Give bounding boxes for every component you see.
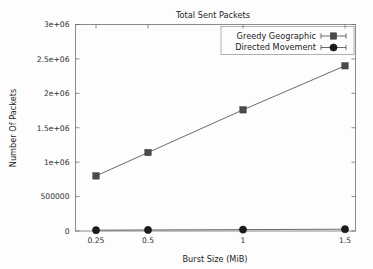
chart-svg: Total Sent Packets 05000001e+061.5e+062e… [0, 0, 373, 269]
y-tick-label: 2.5e+06 [37, 55, 70, 64]
data-point-circle [92, 227, 99, 234]
x-tick-label: 1 [241, 236, 246, 245]
data-point-square [330, 33, 336, 39]
y-tick-label: 500000 [41, 192, 70, 201]
y-axis-title: Number Of Packets [8, 89, 18, 167]
data-point-circle [144, 226, 151, 233]
data-point-square [93, 173, 99, 179]
data-point-circle [341, 226, 348, 233]
data-point-square [240, 107, 246, 113]
y-tick-label: 3e+06 [44, 20, 70, 29]
data-point-circle [239, 226, 246, 233]
chart-background [0, 0, 373, 269]
chart-title: Total Sent Packets [175, 10, 250, 20]
y-tick-label: 2e+06 [44, 89, 70, 98]
chart-container: Total Sent Packets 05000001e+061.5e+062e… [0, 0, 373, 269]
x-tick-label: 0.25 [88, 236, 105, 245]
data-point-circle [330, 44, 337, 51]
data-point-square [342, 63, 348, 69]
y-tick-label: 1.5e+06 [37, 124, 70, 133]
legend-label-1: Directed Movement [235, 42, 317, 52]
y-tick-label: 1e+06 [44, 158, 70, 167]
x-axis-title: Burst Size (MiB) [182, 254, 247, 264]
data-point-square [145, 149, 151, 155]
x-tick-label: 1.5 [339, 236, 351, 245]
y-tick-label: 0 [65, 227, 70, 236]
legend-label-0: Greedy Geographic [237, 31, 316, 41]
x-tick-label: 0.5 [142, 236, 154, 245]
